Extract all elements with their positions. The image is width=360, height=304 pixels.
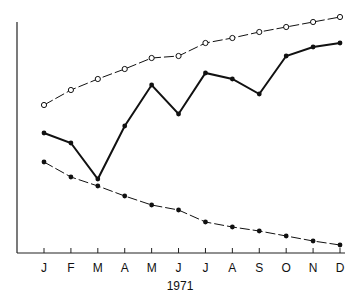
series-group	[41, 14, 342, 247]
data-point-marker	[203, 220, 208, 225]
data-point-marker	[69, 175, 74, 180]
data-point-marker	[176, 112, 181, 117]
data-point-marker	[95, 76, 100, 81]
x-tick-label: N	[309, 261, 318, 275]
data-point-marker	[42, 160, 47, 165]
data-point-marker	[284, 24, 289, 29]
x-tick-label: M	[147, 261, 157, 275]
data-point-marker	[257, 229, 262, 234]
data-point-marker	[337, 14, 342, 19]
data-point-marker	[338, 243, 343, 248]
data-point-marker	[310, 19, 315, 24]
data-point-marker	[203, 71, 208, 76]
data-point-marker	[230, 35, 235, 40]
x-tick-label: O	[282, 261, 291, 275]
data-point-marker	[122, 124, 127, 129]
data-point-marker	[95, 177, 100, 182]
x-ticks	[44, 248, 340, 253]
x-tick-label: S	[255, 261, 263, 275]
x-tick-labels: JFMAMJJASOND	[41, 261, 345, 275]
data-point-marker	[230, 225, 235, 230]
data-point-marker	[338, 41, 343, 46]
x-tick-label: A	[228, 261, 236, 275]
x-tick-label: A	[121, 261, 129, 275]
data-point-marker	[203, 40, 208, 45]
data-point-marker	[68, 87, 73, 92]
data-point-marker	[311, 239, 316, 244]
data-point-marker	[311, 45, 316, 50]
x-tick-label: J	[41, 261, 47, 275]
x-tick-label: M	[93, 261, 103, 275]
data-point-marker	[284, 54, 289, 59]
data-point-marker	[95, 184, 100, 189]
data-point-marker	[257, 29, 262, 34]
data-point-marker	[176, 53, 181, 58]
series-line	[44, 43, 340, 179]
data-point-marker	[257, 92, 262, 97]
data-point-marker	[122, 66, 127, 71]
data-point-marker	[69, 141, 74, 146]
data-point-marker	[149, 83, 154, 88]
x-tick-label: J	[202, 261, 208, 275]
data-point-marker	[41, 102, 46, 107]
data-point-marker	[284, 234, 289, 239]
data-point-marker	[149, 203, 154, 208]
line-chart: JFMAMJJASOND 1971	[0, 0, 360, 304]
data-point-marker	[42, 131, 47, 136]
data-point-marker	[149, 55, 154, 60]
data-point-marker	[122, 194, 127, 199]
x-tick-label: D	[336, 261, 345, 275]
x-tick-label: J	[176, 261, 182, 275]
series-line	[44, 162, 340, 245]
data-point-marker	[230, 77, 235, 82]
x-tick-label: F	[67, 261, 74, 275]
data-point-marker	[176, 208, 181, 213]
x-axis-label: 1971	[167, 279, 194, 293]
